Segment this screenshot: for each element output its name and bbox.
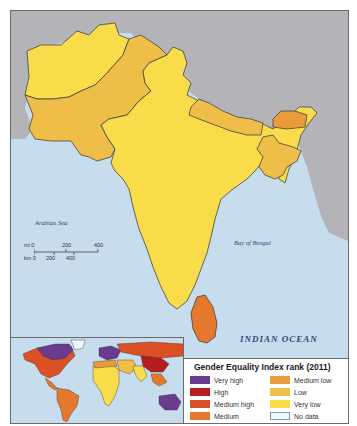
legend-label: High [214,389,228,396]
legend-item-very-high: Very high [190,375,270,385]
swatch-very-high [190,376,210,384]
legend-item-low: Low [270,387,349,397]
scale-mi-label: mi 0 [24,242,34,248]
legend-label: Very low [294,401,320,408]
swatch-medium-low [270,376,290,384]
legend-title: Gender Equality Index rank (2011) [194,362,348,372]
arabian-sea-label: Arabian Sea [35,219,67,226]
legend-item-medium-high: Medium high [190,399,270,409]
legend: Gender Equality Index rank (2011) Very h… [184,358,348,423]
inset-africa [93,364,119,406]
inset-russia [117,342,184,358]
swatch-low [270,388,290,396]
world-inset-map [11,337,184,423]
legend-item-medium: Medium [190,411,270,421]
legend-label: Medium high [214,401,254,408]
inset-south-asia [133,366,147,382]
legend-label: Medium low [294,377,331,384]
map-frame: Arabian Sea Bay of Bengal INDIAN OCEAN m… [10,10,349,424]
legend-label: Low [294,389,307,396]
inset-south-america [57,388,79,422]
legend-item-very-low: Very low [270,399,349,409]
world-map-svg [11,338,184,423]
legend-label: No data [294,413,319,420]
inset-greenland [71,340,85,350]
bhutan[interactable] [273,111,307,129]
swatch-high [190,388,210,396]
scale-km-label: km 0 [24,255,36,261]
legend-item-no-data: No data [270,411,349,421]
scale-km-200: 200 [46,255,55,261]
inset-europe [99,346,121,360]
indian-ocean-label: INDIAN OCEAN [240,334,318,344]
legend-label: Very high [214,377,243,384]
sri-lanka[interactable] [191,295,217,343]
scale-bar: mi 0 200 400 km 0 200 400 [24,242,104,268]
swatch-medium-high [190,400,210,408]
legend-item-medium-low: Medium low [270,375,349,385]
scale-km-400: 400 [66,255,75,261]
inset-se-asia [151,374,167,386]
swatch-no-data [270,412,290,420]
legend-label: Medium [214,413,239,420]
swatch-very-low [270,400,290,408]
swatch-medium [190,412,210,420]
legend-grid: Very high Medium low High Low Medium hig… [190,375,348,421]
bay-of-bengal-label: Bay of Bengal [234,239,271,246]
inset-china [141,356,169,372]
inset-central-america [45,378,57,390]
legend-item-high: High [190,387,270,397]
inset-australia [159,394,181,410]
